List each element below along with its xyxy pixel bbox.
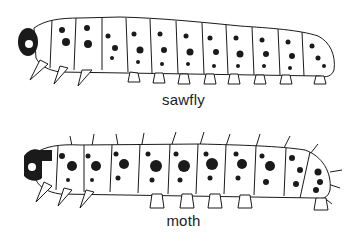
sawfly-larva-figure: sawfly [0,0,351,120]
moth-larva-figure: moth [0,120,351,238]
moth-label: moth [8,212,351,229]
sawfly-label: sawfly [8,91,351,108]
